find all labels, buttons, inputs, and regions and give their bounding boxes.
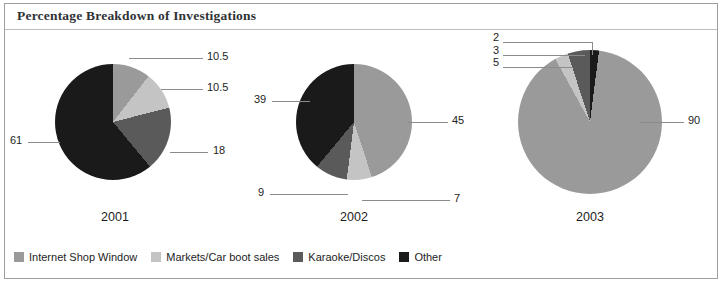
leader-line-2002-b <box>362 200 450 201</box>
legend-label: Markets/Car boot sales <box>166 251 279 263</box>
leader-line-2001-a <box>129 58 203 59</box>
legend-item-markets-car-boot-sales: Markets/Car boot sales <box>151 251 279 263</box>
legend-item-karaoke-discos: Karaoke/Discos <box>293 251 385 263</box>
leader-line-2002-d <box>272 101 310 102</box>
pie-label-2003-c: 3 <box>493 44 499 56</box>
leader-line-2001-c <box>170 152 208 153</box>
pie-label-2003-b: 5 <box>493 56 499 68</box>
legend-label: Karaoke/Discos <box>308 251 385 263</box>
legend-swatch-icon <box>151 252 161 262</box>
leader-line-2002-c <box>270 194 348 195</box>
leader-line-2003-c <box>503 55 585 56</box>
legend-label: Internet Shop Window <box>29 251 137 263</box>
pie-chart-2002: 45 7 9 39 2002 <box>240 0 490 240</box>
legend-swatch-icon <box>293 252 303 262</box>
leader-line-2001-d <box>28 142 60 143</box>
legend-item-internet-shop-window: Internet Shop Window <box>14 251 137 263</box>
leader-line-2003-a <box>640 122 684 123</box>
year-label-2001: 2001 <box>85 210 145 224</box>
legend-swatch-icon <box>14 252 24 262</box>
pie-label-2001-c: 18 <box>213 144 225 156</box>
pie-label-2001-d: 61 <box>10 134 22 146</box>
year-label-2003: 2003 <box>560 210 620 224</box>
leader-line-2002-a <box>408 122 448 123</box>
leader-line-2003-b <box>503 67 573 68</box>
chart-figure: Percentage Breakdown of Investigations 1… <box>0 0 722 283</box>
pie-slices-2002 <box>296 64 412 180</box>
chart-legend: Internet Shop Window Markets/Car boot sa… <box>14 251 456 263</box>
leader-line-2003-d <box>503 42 593 43</box>
pie-label-2002-d: 39 <box>254 93 266 105</box>
pie-label-2002-b: 7 <box>454 192 460 204</box>
pie-label-2002-a: 45 <box>452 114 464 126</box>
pie-label-2003-a: 90 <box>688 114 700 126</box>
pie-label-2001-a: 10.5 <box>207 50 228 62</box>
pie-chart-2001: 10.5 10.5 18 61 2001 <box>0 0 260 240</box>
pie-label-2002-c: 9 <box>258 186 264 198</box>
leader-line-2001-b <box>161 89 203 90</box>
pie-chart-2003: 2 3 5 90 2003 <box>480 0 722 240</box>
legend-label: Other <box>414 251 442 263</box>
legend-item-other: Other <box>399 251 442 263</box>
pie-label-2003-d: 2 <box>493 31 499 43</box>
pie-slices-2001 <box>55 64 171 180</box>
pie-label-2001-b: 10.5 <box>207 81 228 93</box>
year-label-2002: 2002 <box>324 210 384 224</box>
legend-swatch-icon <box>399 252 409 262</box>
leader-elbow-2003-d <box>592 42 593 55</box>
